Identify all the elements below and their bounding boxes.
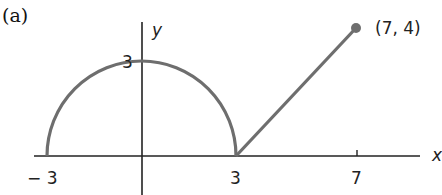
y-axis-label: y	[151, 20, 163, 40]
y-tick-label-3: 3	[122, 52, 133, 72]
x-axis-label: x	[431, 145, 442, 165]
x-tick-label-3: 3	[230, 168, 241, 188]
point-annotation: (7, 4)	[375, 18, 421, 38]
panel-label: (a)	[2, 4, 28, 26]
graph: (a) x y − 3 3 7 3 (7, 4)	[0, 0, 442, 195]
line-segment	[236, 28, 356, 156]
x-tick-label-7: 7	[351, 168, 362, 188]
x-tick-label-neg3: − 3	[27, 168, 57, 188]
endpoint-marker	[351, 23, 361, 33]
